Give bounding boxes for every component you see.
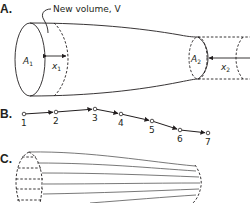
trajectory-point xyxy=(22,112,26,116)
tube-top-edge xyxy=(30,23,198,37)
streamline xyxy=(42,173,199,177)
point-label: 6 xyxy=(177,134,183,144)
panel-c: C. xyxy=(0,152,201,203)
inlet-right-boundary xyxy=(29,152,42,203)
point-label: 5 xyxy=(149,125,155,135)
a1-label: A1 xyxy=(22,56,33,67)
panel-c-label: C. xyxy=(0,152,12,166)
trajectory-point xyxy=(54,110,58,114)
point-label: 1 xyxy=(21,118,27,128)
point-label: 3 xyxy=(92,113,98,123)
point-label: 2 xyxy=(53,116,59,126)
trajectory-segment xyxy=(123,114,149,120)
tube-bottom-edge xyxy=(30,79,198,96)
point-label: 7 xyxy=(205,137,211,147)
trajectory-point xyxy=(206,131,210,135)
trajectory-segment xyxy=(26,112,53,114)
volume-boundary-1 xyxy=(54,23,68,96)
trajectory-segment xyxy=(58,109,92,112)
inlet-left-boundary xyxy=(16,152,29,203)
panel-a-label: A. xyxy=(0,2,12,16)
x2-label: x2 xyxy=(220,62,230,73)
trajectory-segment xyxy=(97,109,118,113)
flow-diagram: A. New volume, V A1 x1 A2 x2 B. 1234567 xyxy=(0,0,250,203)
point-label: 4 xyxy=(118,118,124,128)
trajectory-point xyxy=(93,107,97,111)
streamline xyxy=(43,183,200,184)
panel-a: A. New volume, V A1 x1 A2 x2 xyxy=(0,2,250,96)
x1-label: x1 xyxy=(51,61,61,72)
trajectory-point xyxy=(150,119,154,123)
annotation-leader-line xyxy=(42,9,51,33)
streamline xyxy=(90,195,196,203)
trajectory-segment xyxy=(154,122,177,129)
new-volume-annotation: New volume, V xyxy=(53,4,122,14)
trajectory-point xyxy=(178,128,182,132)
trajectory-point xyxy=(119,112,123,116)
a2-label: A2 xyxy=(190,54,201,65)
streamline xyxy=(29,152,195,166)
panel-b: B. 1234567 xyxy=(0,107,211,147)
streamline xyxy=(43,189,199,194)
panel-b-label: B. xyxy=(0,107,12,121)
trajectory-segment xyxy=(182,130,205,132)
streamline xyxy=(37,163,196,171)
